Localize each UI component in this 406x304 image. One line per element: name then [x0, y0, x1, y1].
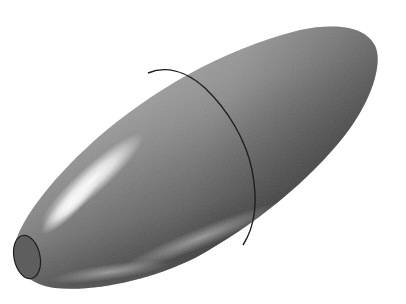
ellipsoid-body: [0, 0, 406, 304]
render-canvas: 3D-rendered bullet-shaped ellipsoid soli…: [0, 0, 406, 304]
ellipsoid-figure: [0, 0, 406, 304]
